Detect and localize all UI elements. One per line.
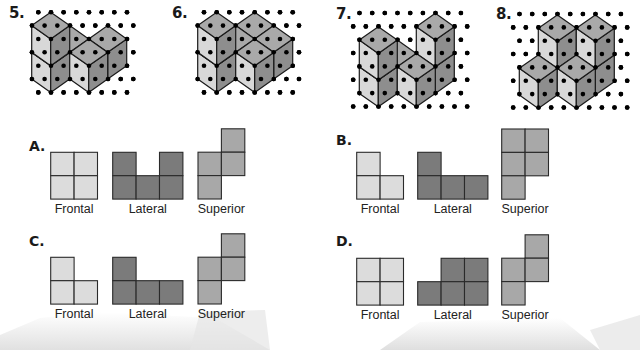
view-lateral bbox=[418, 258, 488, 305]
figure-number-label: 7. bbox=[336, 5, 351, 23]
answer-option-a[interactable] bbox=[51, 129, 245, 199]
figure-number-label: 8. bbox=[496, 5, 511, 23]
view-superior bbox=[502, 129, 549, 199]
isometric-figure-7 bbox=[351, 11, 470, 109]
view-superior bbox=[198, 129, 245, 199]
view-caption-superior: Superior bbox=[194, 202, 249, 216]
view-caption-frontal: Frontal bbox=[47, 307, 102, 321]
view-frontal bbox=[357, 258, 404, 305]
view-frontal bbox=[51, 152, 98, 199]
option-letter: D. bbox=[336, 233, 353, 249]
isometric-figure-5 bbox=[30, 10, 136, 95]
view-superior bbox=[502, 235, 549, 305]
exercise-sheet bbox=[0, 0, 640, 350]
option-letter: B. bbox=[336, 132, 352, 148]
answer-option-b[interactable] bbox=[357, 129, 549, 199]
view-caption-lateral: Lateral bbox=[109, 307, 187, 321]
view-caption-frontal: Frontal bbox=[353, 202, 408, 216]
view-lateral bbox=[113, 257, 183, 304]
view-superior bbox=[198, 234, 245, 304]
view-frontal bbox=[51, 257, 98, 304]
view-lateral bbox=[113, 152, 183, 199]
view-caption-frontal: Frontal bbox=[47, 202, 102, 216]
option-letter: C. bbox=[29, 233, 45, 249]
figure-number-label: 6. bbox=[172, 4, 187, 22]
isometric-figure-8 bbox=[511, 12, 630, 110]
figure-number-label: 5. bbox=[9, 4, 24, 22]
view-caption-superior: Superior bbox=[498, 308, 553, 322]
view-caption-superior: Superior bbox=[498, 202, 553, 216]
view-caption-lateral: Lateral bbox=[109, 202, 187, 216]
answer-option-c[interactable] bbox=[51, 234, 245, 304]
view-caption-frontal: Frontal bbox=[353, 308, 408, 322]
view-lateral bbox=[418, 152, 488, 199]
view-caption-lateral: Lateral bbox=[414, 202, 492, 216]
isometric-figure-6 bbox=[195, 10, 301, 95]
view-caption-superior: Superior bbox=[194, 307, 249, 321]
view-caption-lateral: Lateral bbox=[414, 308, 492, 322]
option-letter: A. bbox=[29, 138, 45, 154]
answer-option-d[interactable] bbox=[357, 235, 549, 305]
view-frontal bbox=[357, 152, 404, 199]
